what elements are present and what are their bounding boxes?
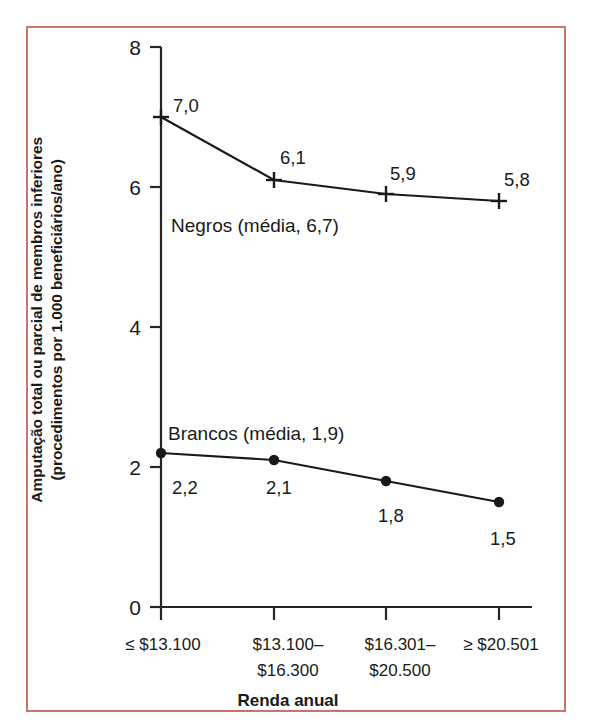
x-tick-label-3-line1: ≥ $20.501 bbox=[463, 635, 539, 654]
x-tick-label-2-line1: $16.301– bbox=[365, 635, 436, 654]
x-tick-label-1-line1: $13.100– bbox=[253, 635, 324, 654]
data-label-brancos-0: 2,2 bbox=[172, 477, 198, 498]
x-axis-ticks bbox=[161, 607, 499, 620]
data-label-negros-2: 5,9 bbox=[390, 163, 416, 184]
x-tick-label-0-line1: ≤ $13.100 bbox=[125, 635, 201, 654]
y-axis-ticks bbox=[150, 47, 161, 607]
marker-brancos-1 bbox=[269, 455, 279, 465]
marker-brancos-3 bbox=[494, 497, 504, 507]
data-label-brancos-2: 1,8 bbox=[378, 505, 404, 526]
x-tick-label-2-line2: $20.500 bbox=[369, 661, 430, 680]
series-label-negros: Negros (média, 6,7) bbox=[171, 215, 339, 236]
x-axis-tick-labels: ≤ $13.100 $13.100– $16.300 $16.301– $20.… bbox=[125, 635, 539, 680]
y-tick-label-0: 0 bbox=[129, 596, 141, 619]
y-axis-tick-labels: 8 6 4 2 0 bbox=[129, 36, 141, 619]
marker-brancos-0 bbox=[156, 448, 166, 458]
data-label-negros-1: 6,1 bbox=[280, 147, 306, 168]
line-chart-plot: 8 6 4 2 0 ≤ $13.100 $13.100– $16.300 $16… bbox=[0, 0, 589, 728]
series-negros-markers bbox=[153, 109, 507, 209]
marker-brancos-2 bbox=[381, 476, 391, 486]
y-tick-label-8: 8 bbox=[129, 36, 141, 59]
data-label-negros-3: 5,8 bbox=[504, 169, 530, 190]
x-axis-title: Renda anual bbox=[237, 691, 338, 710]
series-negros-line bbox=[161, 117, 499, 201]
data-label-brancos-1: 2,1 bbox=[266, 477, 292, 498]
data-label-brancos-3: 1,5 bbox=[490, 528, 516, 549]
y-tick-label-2: 2 bbox=[129, 456, 141, 479]
data-label-negros-0: 7,0 bbox=[173, 95, 199, 116]
series-negros: 7,0 6,1 5,9 5,8 Negros (média, 6,7) bbox=[153, 95, 530, 236]
y-tick-label-4: 4 bbox=[129, 316, 141, 339]
series-label-brancos: Brancos (média, 1,9) bbox=[168, 423, 344, 444]
y-tick-label-6: 6 bbox=[129, 176, 141, 199]
series-brancos-line bbox=[161, 453, 499, 502]
x-tick-label-1-line2: $16.300 bbox=[257, 661, 318, 680]
series-brancos: 2,2 2,1 1,8 1,5 Brancos (média, 1,9) bbox=[156, 423, 516, 549]
figure-container: Amputação total ou parcial de membros in… bbox=[0, 0, 589, 728]
